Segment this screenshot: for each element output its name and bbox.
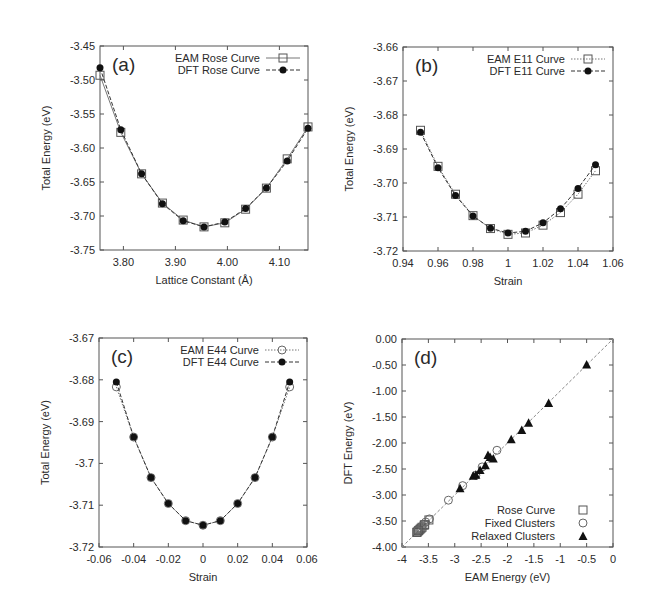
y-tick-label: -0.50	[372, 359, 397, 371]
legend: EAM E11 CurveDFT E11 Curve	[487, 53, 605, 77]
legend-label: DFT E11 Curve	[490, 65, 565, 77]
x-tick-label: 0.06	[296, 553, 317, 565]
plot-frame	[99, 338, 307, 547]
x-axis-label: EAM Energy (eV)	[465, 571, 551, 583]
x-tick-label: -0.02	[156, 553, 181, 565]
plot-frame	[100, 46, 308, 250]
series-eam-e44-curve	[112, 383, 293, 529]
y-tick-label: -2.50	[372, 463, 397, 475]
circle-marker	[452, 192, 459, 199]
y-tick-label: -4.00	[372, 541, 397, 553]
series-line	[421, 132, 596, 233]
circle-marker	[242, 205, 249, 212]
x-tick-label: 0.98	[462, 257, 483, 269]
y-tick-label: -3.69	[69, 416, 94, 428]
x-tick-label: 0	[610, 553, 616, 565]
y-axis-label: Total Energy (eV)	[343, 107, 355, 192]
circle-marker	[97, 64, 104, 71]
circle-marker	[269, 434, 276, 441]
legend-label: Relaxed Clusters	[471, 530, 555, 542]
y-tick-label: -3.55	[70, 108, 95, 120]
x-tick-label: -0.06	[86, 553, 111, 565]
series-line	[100, 75, 308, 227]
circle-marker	[117, 126, 124, 133]
x-axis: -0.06-0.04-0.0200.020.040.06	[86, 338, 317, 565]
triangle-marker	[456, 484, 465, 493]
x-tick-label: -1	[555, 553, 565, 565]
circle-marker	[221, 219, 228, 226]
circle-marker	[435, 164, 442, 171]
panel-label: (b)	[415, 55, 438, 76]
circle-marker	[234, 500, 241, 507]
circle-marker	[130, 434, 137, 441]
y-tick-label: -3.71	[69, 499, 94, 511]
panel-b-e11-curve: 0.940.960.9811.021.041.06-3.66-3.67-3.68…	[328, 0, 656, 300]
panel-d-energy-comparison: -4-3.5-3-2.5-2-1.5-1-0.500.00-0.50-1.00-…	[328, 300, 656, 609]
series-dft-rose-curve	[97, 64, 312, 230]
circle-marker	[444, 496, 452, 504]
circle-marker	[540, 219, 547, 226]
circle-marker	[592, 161, 599, 168]
circle-marker	[159, 200, 166, 207]
x-tick-label: 0	[200, 553, 206, 565]
y-tick-label: -3.68	[373, 109, 398, 121]
y-tick-label: -3.72	[373, 245, 398, 257]
circle-marker	[575, 185, 582, 192]
x-tick-label: 4.10	[269, 256, 290, 268]
circle-marker	[201, 223, 208, 230]
y-axis-label: DFT Energy (eV)	[342, 402, 354, 485]
legend: EAM Rose CurveDFT Rose Curve	[175, 52, 300, 76]
legend-label: Rose Curve	[497, 504, 555, 516]
circle-marker	[286, 378, 293, 385]
circle-marker	[200, 522, 207, 529]
x-tick-label: 1.06	[602, 257, 623, 269]
legend: Rose CurveFixed ClustersRelaxed Clusters	[471, 504, 587, 542]
circle-marker	[505, 229, 512, 236]
legend-label: DFT E44 Curve	[183, 356, 259, 368]
series-relaxed-clusters	[456, 360, 592, 492]
legend-label: EAM E11 Curve	[487, 53, 565, 65]
y-tick-label: -3.60	[70, 142, 95, 154]
x-tick-label: 4.00	[217, 256, 238, 268]
circle-marker	[470, 212, 477, 219]
x-tick-label: -2	[503, 553, 513, 565]
panel-a-rose-curve: 3.803.904.004.10-3.45-3.50-3.55-3.60-3.6…	[0, 0, 328, 300]
x-tick-label: -0.04	[121, 553, 146, 565]
series-dft-e44-curve	[113, 378, 293, 528]
legend: EAM E44 CurveDFT E44 Curve	[180, 344, 299, 368]
circle-marker	[182, 517, 189, 524]
series-eam-e11-curve	[417, 126, 600, 238]
y-tick-label: -3.50	[372, 515, 397, 527]
x-tick-label: 0.02	[227, 553, 248, 565]
circle-marker	[417, 129, 424, 136]
y-tick-label: -3.45	[70, 40, 95, 52]
y-tick-label: -3.50	[70, 74, 95, 86]
plot-area	[417, 126, 600, 238]
series-line	[116, 382, 289, 525]
panel-c-e44-curve: -0.06-0.04-0.0200.020.040.06-3.67-3.68-3…	[0, 300, 328, 609]
square-marker	[584, 55, 592, 63]
circle-marker	[305, 125, 312, 132]
circle-marker	[165, 500, 172, 507]
x-axis-label: Strain	[189, 571, 218, 583]
y-tick-label: -3.70	[373, 177, 398, 189]
x-tick-label: -3.5	[419, 553, 438, 565]
y-tick-label: -3.66	[373, 41, 398, 53]
x-tick-label: 3.80	[113, 256, 134, 268]
circle-marker	[180, 217, 187, 224]
series-line	[100, 68, 308, 227]
x-axis-label: Strain	[494, 275, 523, 287]
y-tick-label: -3.75	[70, 244, 95, 256]
y-tick-label: -3.7	[75, 457, 94, 469]
triangle-marker	[579, 532, 588, 541]
x-tick-label: 0.96	[427, 257, 448, 269]
plot-area	[96, 64, 312, 231]
series-eam-rose-curve	[96, 71, 312, 231]
y-tick-label: -3.69	[373, 143, 398, 155]
x-tick-label: -4	[397, 553, 407, 565]
x-tick-label: 1.04	[567, 257, 588, 269]
circle-marker	[148, 474, 155, 481]
x-tick-label: 0.04	[262, 553, 283, 565]
legend-label: Fixed Clusters	[485, 517, 556, 529]
circle-marker	[279, 359, 286, 366]
